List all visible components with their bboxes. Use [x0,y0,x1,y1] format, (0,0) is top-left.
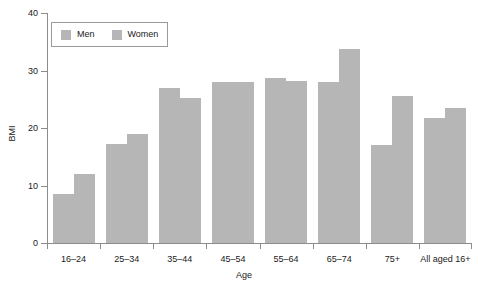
bar-women [74,174,95,243]
y-axis-tick-label-wrap: 40 [0,9,38,18]
x-axis-tick [47,244,48,249]
bar-men [53,194,74,243]
x-axis-tick [153,244,154,249]
bar-men [106,144,127,243]
y-axis-tick [41,186,47,187]
y-axis-tick-label: 30 [4,67,38,76]
y-axis-tick-label-wrap: 30 [0,67,38,76]
x-axis-tick [419,244,420,249]
y-axis-tick [41,71,47,72]
bar-men [318,82,339,243]
y-axis-tick-label: 40 [4,9,38,18]
y-axis-tick-label: 0 [4,239,38,248]
x-axis-end-tick [471,243,472,249]
x-axis-tick [313,244,314,249]
x-axis-tick [206,244,207,249]
y-axis-tick [41,128,47,129]
bar-women [286,81,307,243]
bmi-bar-chart: BMI 010203040 16–2425–3435–4445–5455–646… [0,0,488,288]
bar-men [371,145,392,243]
bar-women [339,49,360,243]
y-axis-tick [41,13,47,14]
y-axis-tick-label-wrap: 10 [0,182,38,191]
legend-swatch-men-icon [61,30,71,40]
y-axis-line [47,13,48,244]
y-axis-tick-label: 20 [4,124,38,133]
y-axis-tick-label: 10 [4,182,38,191]
chart-legend: Men Women [51,22,168,47]
x-axis-title: Age [0,270,488,280]
bar-men [159,88,180,243]
bar-men [424,118,445,243]
x-axis-tick [100,244,101,249]
legend-entry-men: Men [61,30,95,40]
bar-men [265,78,286,243]
x-axis-tick [260,244,261,249]
bar-women [180,98,201,243]
bar-women [392,96,413,243]
y-axis-tick-label-wrap: 0 [0,239,38,248]
y-axis-tick-label-wrap: 20 [0,124,38,133]
bar-women [233,82,254,243]
legend-swatch-women-icon [112,30,122,40]
bar-women [127,134,148,243]
bar-men [212,82,233,243]
x-axis-tick [366,244,367,249]
legend-label-men: Men [77,30,95,39]
y-axis-title: BMI [8,114,17,154]
legend-label-women: Women [128,30,159,39]
legend-entry-women: Women [112,30,159,40]
bar-women [445,108,466,243]
x-axis-category-label: All aged 16+ [413,254,478,264]
